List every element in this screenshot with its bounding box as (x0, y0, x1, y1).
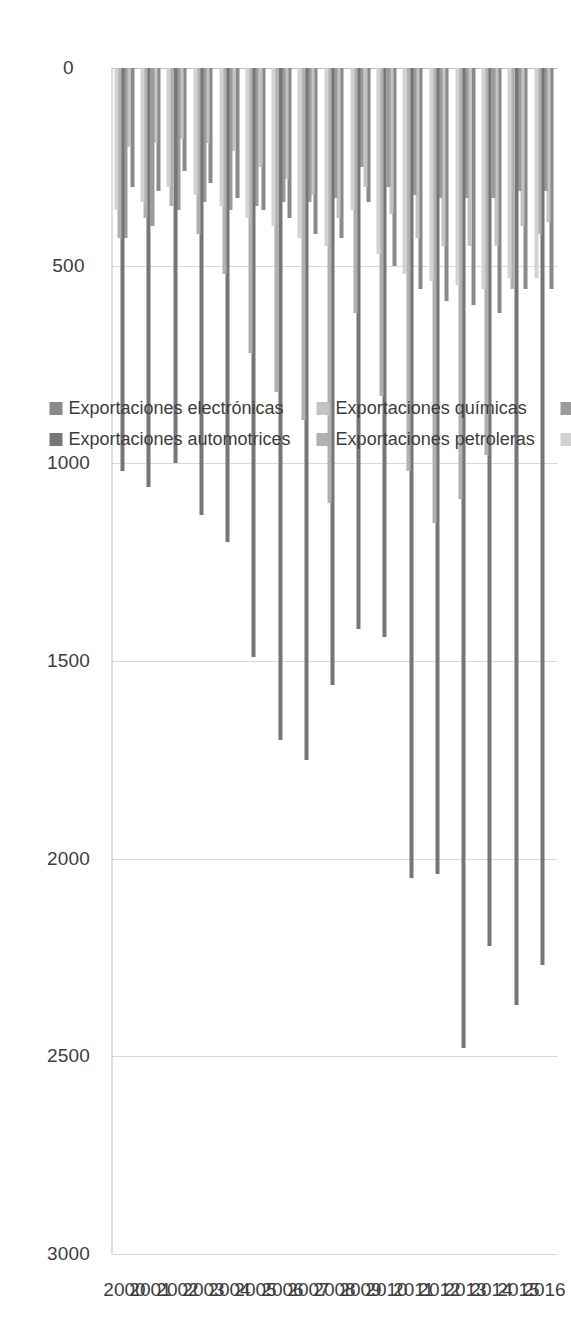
legend-swatch-icon (560, 402, 571, 415)
bar (245, 68, 249, 218)
legend-swatch-icon (49, 402, 62, 415)
legend-swatch-icon (316, 402, 329, 415)
plot-area (111, 68, 557, 1254)
bar (534, 68, 538, 278)
chart-legend: Exportaciones electrónicasExportaciones … (49, 398, 571, 450)
value-axis-tick: 500 (28, 255, 108, 277)
rotated-chart-host: 050010001500200025003000 200020012002200… (0, 0, 571, 1328)
legend-label: Exportaciones petroleras (335, 429, 534, 450)
bar (402, 68, 406, 274)
bar (481, 68, 485, 289)
legend-item[interactable]: Exportaciones electrónicas (49, 398, 290, 419)
category-axis-line (111, 68, 112, 1254)
bar (507, 68, 511, 278)
legend-swatch-icon (316, 433, 329, 446)
bar (166, 68, 170, 187)
value-axis-tick: 1500 (28, 650, 108, 672)
bar (271, 68, 275, 226)
gridline (111, 1056, 557, 1057)
bar (193, 68, 197, 195)
bar (350, 68, 354, 210)
chart-canvas: 050010001500200025003000 200020012002200… (0, 0, 571, 1328)
category-label-2016: 2016 (514, 1278, 571, 1302)
bar (140, 68, 144, 202)
value-axis-tick: 0 (28, 57, 108, 79)
legend-column-2: Exportaciones químicasExportaciones petr… (316, 398, 534, 450)
legend-swatch-icon (560, 433, 571, 446)
bar (219, 68, 223, 206)
legend-column-1: Exportaciones electrónicasExportaciones … (49, 398, 290, 450)
bar (429, 68, 433, 281)
bar (324, 68, 328, 246)
gridline (111, 1254, 557, 1255)
value-axis-tick: 2500 (28, 1045, 108, 1067)
legend-item[interactable]: Exportaciones textiles (560, 398, 571, 419)
bar (297, 68, 301, 238)
value-axis-tick: 2000 (28, 848, 108, 870)
legend-item[interactable]: Exportaciones petroleras (316, 429, 534, 450)
legend-item[interactable]: Exportaciones químicas (316, 398, 534, 419)
value-axis-tick: 3000 (28, 1243, 108, 1265)
legend-item[interactable]: Exportaciones automotrices (49, 429, 290, 450)
legend-label: Exportaciones electrónicas (68, 398, 283, 419)
legend-label: Exportaciones automotrices (68, 429, 290, 450)
legend-swatch-icon (49, 433, 62, 446)
legend-label: Exportaciones químicas (335, 398, 526, 419)
legend-item[interactable]: Exportaciones eléctricas (560, 429, 571, 450)
value-axis-tick: 1000 (28, 452, 108, 474)
bar (114, 68, 118, 210)
bar (376, 68, 380, 254)
bar (455, 68, 459, 285)
legend-column-3: Exportaciones textilesExportaciones eléc… (560, 398, 571, 450)
